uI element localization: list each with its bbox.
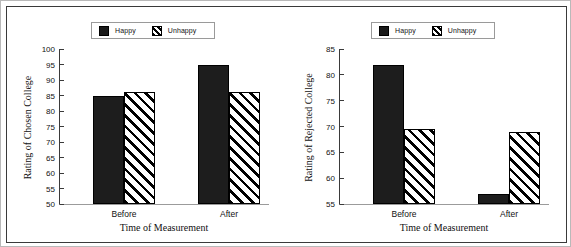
plot-area-left: 50 55 60 65 70 75 80 85 90 95 100 Before… (59, 49, 269, 205)
legend-label-unhappy: Unhappy (448, 27, 477, 34)
legend-left: Happy Unhappy (91, 22, 215, 39)
y-tick-left-60: 60 (46, 169, 60, 178)
y-axis-title-left-text: Rating of Chosen College (23, 75, 34, 179)
legend-entry-happy: Happy (379, 26, 416, 36)
legend-label-unhappy: Unhappy (168, 27, 197, 34)
y-tick-left-85: 85 (46, 91, 60, 100)
x-axis-title-right: Time of Measurement (339, 222, 549, 233)
x-category-right-after: After (500, 209, 518, 219)
bar-right-before-happy (373, 65, 404, 205)
legend-entry-unhappy: Unhappy (432, 26, 477, 36)
y-tick-left-50: 50 (46, 200, 60, 209)
legend-swatch-unhappy-icon (432, 26, 442, 36)
y-axis-title-left: Rating of Chosen College (21, 49, 35, 205)
y-tick-left-70: 70 (46, 138, 60, 147)
legend-entry-happy: Happy (99, 26, 136, 36)
bar-right-before-unhappy (404, 129, 435, 204)
y-tick-right-60: 60 (326, 174, 340, 183)
y-tick-right-75: 75 (326, 96, 340, 105)
legend-label-happy: Happy (115, 27, 136, 34)
legend-entry-unhappy: Unhappy (152, 26, 197, 36)
y-tick-left-75: 75 (46, 122, 60, 131)
y-axis-title-right-text: Rating of Rejected College (303, 73, 314, 182)
figure-outer-frame: Happy Unhappy Rating of Chosen College 5… (0, 0, 571, 247)
y-tick-left-90: 90 (46, 76, 60, 85)
bar-left-before-unhappy (124, 92, 155, 204)
y-tick-left-80: 80 (46, 107, 60, 116)
charts-row: Happy Unhappy Rating of Chosen College 5… (7, 7, 566, 242)
bar-right-after-unhappy (509, 132, 540, 204)
y-tick-left-95: 95 (46, 60, 60, 69)
legend-swatch-unhappy-icon (152, 26, 162, 36)
y-tick-right-65: 65 (326, 148, 340, 157)
legend-right: Happy Unhappy (371, 22, 495, 39)
x-category-left-before: Before (111, 209, 136, 219)
y-tick-right-85: 85 (326, 45, 340, 54)
bar-right-after-happy (478, 194, 509, 204)
y-tick-right-55: 55 (326, 200, 340, 209)
y-tick-left-100: 100 (42, 45, 60, 54)
y-tick-left-55: 55 (46, 184, 60, 193)
x-category-left-after: After (220, 209, 238, 219)
x-category-right-before: Before (391, 209, 416, 219)
y-tick-left-65: 65 (46, 153, 60, 162)
plot-area-right: 55 60 65 70 75 80 85 Before After (339, 49, 549, 205)
legend-swatch-happy-icon (379, 26, 389, 36)
chart-rejected-college: Happy Unhappy Rating of Rejected College… (287, 7, 566, 242)
bar-left-after-unhappy (229, 92, 260, 204)
chart-chosen-college: Happy Unhappy Rating of Chosen College 5… (7, 7, 286, 242)
bar-left-before-happy (93, 96, 124, 205)
y-tick-right-80: 80 (326, 70, 340, 79)
x-axis-title-left: Time of Measurement (59, 222, 269, 233)
legend-label-happy: Happy (395, 27, 416, 34)
legend-swatch-happy-icon (99, 26, 109, 36)
bar-left-after-happy (198, 65, 229, 205)
y-tick-right-70: 70 (326, 122, 340, 131)
y-axis-title-right: Rating of Rejected College (301, 49, 315, 205)
